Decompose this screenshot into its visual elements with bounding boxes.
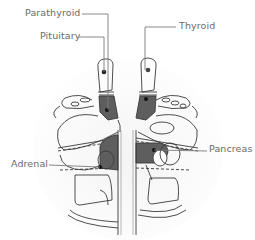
label-pituitary: Pituitary [40, 30, 81, 41]
label-adrenal: Adrenal [11, 158, 48, 169]
right-thyroid-point [144, 97, 148, 101]
right-pituitary-point [146, 68, 151, 73]
feet-illustration [0, 0, 255, 240]
background-shading [33, 60, 223, 240]
reflexology-diagram: Parathyroid Pituitary Thyroid Adrenal Pa… [0, 0, 255, 240]
label-parathyroid: Parathyroid [25, 7, 81, 18]
label-thyroid: Thyroid [179, 20, 215, 31]
label-pancreas: Pancreas [209, 143, 252, 154]
